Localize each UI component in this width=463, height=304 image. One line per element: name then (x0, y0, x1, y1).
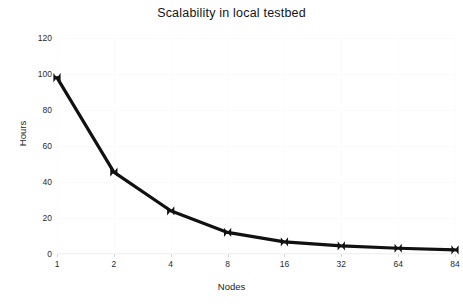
y-axis-title: Hours (17, 104, 28, 164)
chart-container: Scalability in local testbed 02040608010… (0, 0, 463, 304)
y-tick-label: 100 (0, 69, 52, 79)
x-tick-label: 1 (37, 259, 77, 269)
x-axis-title: Nodes (0, 281, 463, 292)
x-tick-mark (398, 254, 399, 257)
x-tick-label: 2 (94, 259, 134, 269)
x-tick-label: 16 (264, 259, 304, 269)
x-tick-label: 32 (321, 259, 361, 269)
y-tick-label: 40 (0, 177, 52, 187)
x-tick-mark (171, 254, 172, 257)
x-tick-mark (455, 254, 456, 257)
x-tick-label: 8 (208, 259, 248, 269)
x-tick-mark (341, 254, 342, 257)
x-tick-label: 4 (151, 259, 191, 269)
x-tick-mark (57, 254, 58, 257)
x-tick-label: 84 (435, 259, 463, 269)
x-tick-mark (228, 254, 229, 257)
x-tick-mark (284, 254, 285, 257)
x-tick-mark (114, 254, 115, 257)
y-tick-label: 0 (0, 249, 52, 259)
y-tick-label: 20 (0, 213, 52, 223)
x-tick-label: 64 (378, 259, 418, 269)
y-tick-label: 120 (0, 33, 52, 43)
